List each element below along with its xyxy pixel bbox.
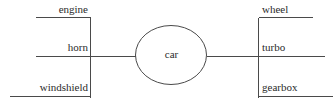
entity-label-car: car — [136, 48, 207, 61]
attribute-label-engine: engine — [0, 3, 88, 16]
attribute-label-turbo: turbo — [262, 41, 335, 54]
attribute-label-wheel: wheel — [262, 3, 335, 16]
attribute-label-gearbox: gearbox — [262, 81, 335, 94]
diagram-canvas: engine horn windshield car wheel turbo g… — [0, 0, 335, 102]
attribute-label-horn: horn — [0, 41, 88, 54]
attribute-label-windshield: windshield — [0, 81, 88, 94]
